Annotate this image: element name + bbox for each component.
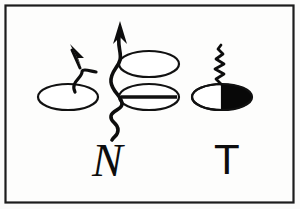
figure-canvas: N T [0, 0, 300, 209]
label-left-group: N [91, 135, 125, 186]
open-ellipse-left [38, 84, 98, 110]
figure-panel: N T [0, 0, 300, 209]
open-ellipse-center-top [119, 51, 179, 77]
label-right-group: T [214, 136, 240, 183]
